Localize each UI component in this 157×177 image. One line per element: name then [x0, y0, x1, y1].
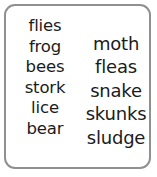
word-column-right: moth fleas snake skunks sludge — [82, 32, 150, 149]
word-item: snake — [90, 79, 142, 102]
word-item: fleas — [95, 55, 137, 78]
word-item: skunks — [86, 102, 147, 125]
word-column-left: flies frog bees stork lice bear — [14, 16, 76, 140]
word-item: stork — [25, 78, 66, 99]
word-list-card: flies frog bees stork lice bear moth fle… — [4, 4, 151, 169]
word-item: bees — [26, 57, 65, 78]
word-item: sludge — [87, 126, 146, 149]
word-item: bear — [27, 119, 64, 140]
word-item: frog — [29, 37, 61, 58]
word-item: flies — [29, 16, 62, 37]
word-item: lice — [31, 98, 59, 119]
word-item: moth — [93, 32, 139, 55]
